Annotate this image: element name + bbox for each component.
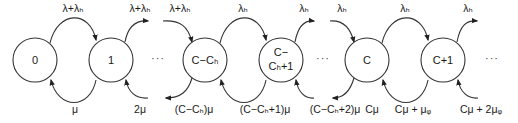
state-label: C+1 — [433, 54, 454, 66]
arc-CCh-to-CCh1 — [220, 18, 266, 43]
rate-label: λₕ — [463, 2, 473, 14]
arc-C-to-C1 — [382, 18, 428, 43]
markov-chain-diagram: 0 1 C−Cₕ C− Cₕ+1 C C+1 ··· ··· ··· λ+λₕ … — [0, 0, 518, 123]
arc-dots-to-1 — [126, 80, 148, 98]
state-label: 1 — [108, 54, 114, 66]
states: 0 1 C−Cₕ C− Cₕ+1 C C+1 — [13, 38, 465, 82]
rate-label: λₕ — [337, 2, 347, 14]
rate-label: λₕ — [400, 2, 410, 14]
ellipsis-2: ··· — [316, 52, 330, 64]
rate-label: λ+λₕ — [130, 2, 151, 14]
ellipsis-3: ··· — [485, 52, 499, 64]
rate-label: 2μ — [134, 103, 146, 115]
ellipsis-1: ··· — [151, 52, 165, 64]
state-1: 1 — [89, 38, 133, 82]
state-c: C — [345, 38, 389, 82]
rate-label: Cμ — [365, 103, 379, 115]
rate-label: λ+λₕ — [63, 2, 84, 14]
arc-dots-to-C — [330, 21, 354, 42]
state-c-minus-ch-plus-1: C− Cₕ+1 — [259, 38, 303, 82]
forward-rate-labels: λ+λₕ λ+λₕ λ+λₕ λₕ λₕ λₕ λₕ λₕ — [63, 2, 473, 14]
arc-CCh-to-dots — [166, 78, 192, 98]
arc-CCh1-to-CCh — [221, 80, 266, 103]
arc-C1-to-C — [383, 80, 428, 103]
state-label: C−Cₕ — [192, 54, 219, 66]
state-c-plus-1: C+1 — [421, 38, 465, 82]
state-label: C — [363, 54, 371, 66]
arc-1-to-dots — [125, 21, 148, 42]
rate-label: (C−Cₕ+2)μ — [310, 103, 361, 115]
rate-label: (C−Cₕ)μ — [175, 103, 214, 115]
rate-label: Cμ + 2μᵩ — [460, 103, 502, 115]
backward-rate-labels: μ 2μ (C−Cₕ)μ (C−Cₕ+1)μ (C−Cₕ+2)μ Cμ Cμ +… — [72, 103, 502, 115]
arc-0-to-1 — [50, 18, 96, 43]
arc-1-to-0 — [51, 80, 96, 103]
rate-label: μ — [72, 103, 78, 115]
state-label: 0 — [32, 54, 38, 66]
rate-label: λₕ — [238, 2, 248, 14]
arc-CCh1-to-dots — [295, 21, 314, 42]
arc-dots-to-CCh — [163, 21, 192, 42]
arc-dots-to-CCh1 — [296, 80, 314, 98]
rate-label: Cμ + μᵩ — [395, 103, 432, 115]
state-label-line1: C− — [274, 46, 288, 58]
rate-label: λₕ — [299, 2, 309, 14]
state-0: 0 — [13, 38, 57, 82]
rate-label: λ+λₕ — [170, 2, 191, 14]
arc-C1-to-dots — [457, 21, 477, 42]
state-label-line2: Cₕ+1 — [269, 60, 294, 72]
arc-dots-to-C1 — [458, 80, 478, 98]
rate-label: (C−Cₕ+1)μ — [240, 103, 291, 115]
state-c-minus-ch: C−Cₕ — [183, 38, 227, 82]
arc-C-to-dots — [333, 78, 354, 98]
